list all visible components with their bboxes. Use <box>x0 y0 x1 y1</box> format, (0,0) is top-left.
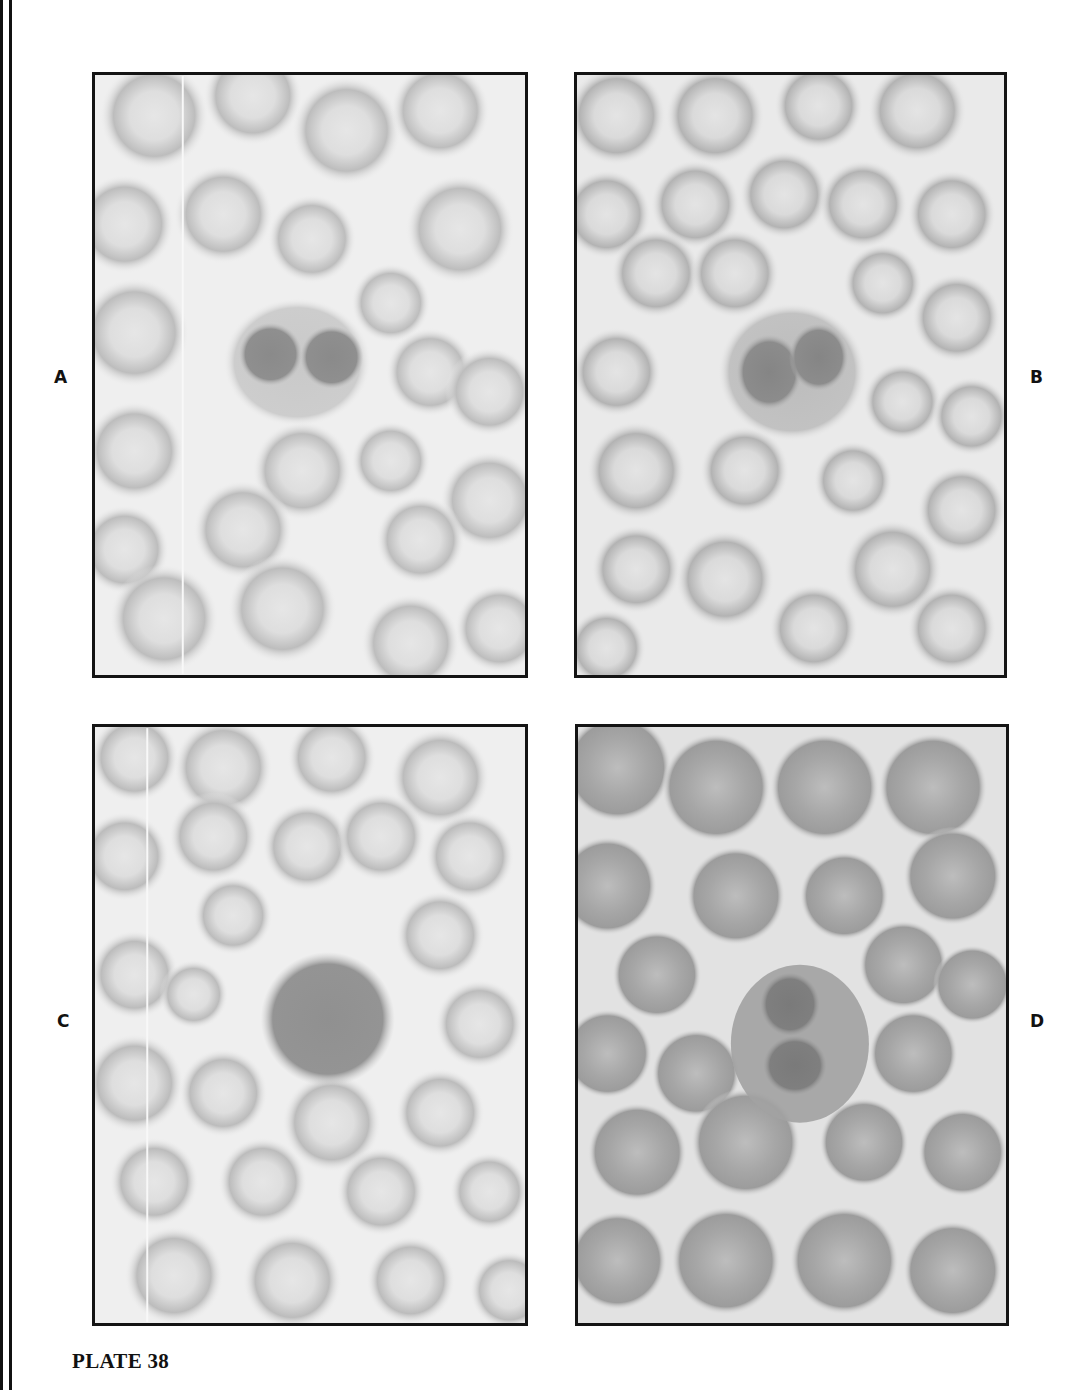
micrograph-panel-c <box>92 724 528 1326</box>
panel-label-d: D <box>1030 1013 1044 1030</box>
micrograph-panel-a <box>92 72 528 678</box>
micrograph-c-image <box>95 727 525 1323</box>
panel-label-b: B <box>1030 369 1043 386</box>
micrograph-panel-d <box>575 724 1009 1326</box>
micrograph-panel-b <box>574 72 1007 678</box>
micrograph-b-image <box>577 75 1004 675</box>
micrograph-a-image <box>95 75 525 675</box>
panel-label-c: C <box>57 1013 69 1030</box>
panel-label-a: A <box>54 369 67 386</box>
plate-caption: PLATE 38 <box>72 1349 169 1374</box>
page-edge-bar-outer <box>0 0 3 1390</box>
micrograph-d-image <box>578 727 1006 1323</box>
page-edge-bar-inner <box>9 0 12 1390</box>
